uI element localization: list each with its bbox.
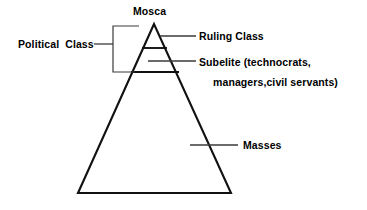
label-political-class: Political Class <box>18 38 94 51</box>
diagram-canvas <box>0 0 367 210</box>
label-mosca: Mosca <box>133 5 166 18</box>
label-subelite-line-1: Subelite (technocrats, <box>199 56 311 69</box>
label-masses: Masses <box>243 139 282 152</box>
label-ruling-class: Ruling Class <box>199 30 264 43</box>
pyramid-outline <box>78 24 231 193</box>
pyramid-diagram: Political Class Mosca Ruling Class Subel… <box>0 0 367 210</box>
label-subelite-line-2: managers,civil servants) <box>213 76 338 89</box>
